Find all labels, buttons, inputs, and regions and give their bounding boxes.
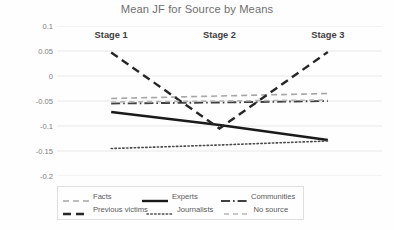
category-label-3: Stage 3: [311, 30, 344, 40]
legend-row: FactsExpertsCommunities: [62, 190, 299, 203]
series-line-facts: [111, 94, 328, 99]
legend-item-communities[interactable]: Communities: [220, 192, 299, 202]
category-label-1: Stage 1: [95, 30, 128, 40]
legend-label: No source: [254, 205, 289, 215]
legend-swatch: [62, 192, 90, 202]
y-axis-tick-label: -0.1: [0, 122, 53, 131]
legend-swatch-icon: [146, 209, 174, 219]
series-line-journalists: [111, 141, 328, 149]
y-axis-tick-label: 0: [0, 72, 53, 81]
legend-item-previous-victims[interactable]: Previous victims: [62, 205, 146, 215]
legend-item-facts[interactable]: Facts: [62, 192, 141, 202]
y-axis-tick-label: 0.05: [0, 47, 53, 56]
legend-label: Communities: [251, 192, 295, 202]
legend-swatch: [223, 205, 251, 215]
series-lines: [57, 26, 382, 176]
y-axis-tick-label: -0.2: [0, 172, 53, 181]
y-axis-tick-label: -0.05: [0, 97, 53, 106]
chart-title: Mean JF for Source by Means: [0, 3, 394, 15]
category-label-2: Stage 2: [203, 30, 236, 40]
legend-item-experts[interactable]: Experts: [141, 192, 220, 202]
series-line-experts: [111, 112, 328, 140]
plot-area: [57, 26, 382, 176]
legend-label: Previous victims: [93, 205, 148, 215]
legend-item-no-source[interactable]: No source: [223, 205, 300, 215]
legend-label: Experts: [172, 192, 198, 202]
legend-swatch-icon: [62, 209, 90, 219]
legend-swatch-icon: [223, 209, 251, 219]
y-axis: 0.10.050-0.05-0.1-0.15-0.2: [0, 26, 53, 176]
legend-swatch: [62, 205, 90, 215]
chart-legend: FactsExpertsCommunities Previous victims…: [57, 186, 304, 220]
legend-item-journalists[interactable]: Journalists: [146, 205, 223, 215]
legend-swatch: [141, 192, 169, 202]
legend-label: Journalists: [177, 205, 213, 215]
y-axis-tick-label: 0.1: [0, 22, 53, 31]
legend-swatch: [220, 192, 248, 202]
chart-container: Mean JF for Source by Means 0.10.050-0.0…: [0, 0, 394, 230]
y-axis-tick-label: -0.15: [0, 147, 53, 156]
legend-row: Previous victimsJournalistsNo source: [62, 203, 299, 216]
legend-label: Facts: [93, 192, 112, 202]
legend-swatch: [146, 205, 174, 215]
